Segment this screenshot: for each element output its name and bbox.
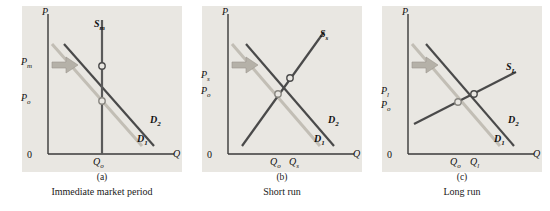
panel-a-caption: Immediate market period	[22, 186, 182, 197]
supply-curve-sl	[414, 72, 516, 124]
panel-b: P Q 0 Ps Po Qo Qs Ss D1 D2	[202, 6, 362, 172]
supply-curve-ss	[242, 32, 324, 146]
panel-c-quantity-label-qo: Qo	[450, 156, 461, 170]
panel-b-demand-label-d2: D2	[328, 114, 339, 128]
panel-c-letter: (c)	[382, 172, 542, 182]
panel-b-diagram	[202, 6, 362, 172]
equilibrium-point-new	[471, 91, 477, 97]
panel-a-price-label-po: Po	[21, 92, 31, 106]
panel-a-supply-label: Sm	[94, 18, 105, 32]
panel-a-origin-label: 0	[27, 149, 32, 160]
panel-a-y-axis-label: P	[42, 6, 48, 17]
panel-a: P Q 0 Pm Po Qo Sm D1 D2	[22, 6, 182, 172]
equilibrium-point-old	[275, 91, 281, 97]
panel-b-letter: (b)	[202, 172, 362, 182]
equilibrium-point-old	[455, 99, 461, 105]
panel-a-letter: (a)	[22, 172, 182, 182]
demand-curve-d1-shadow	[412, 44, 500, 146]
panel-b-quantity-label-qs: Qs	[289, 156, 299, 170]
demand-curve-d2	[246, 44, 334, 146]
equilibrium-point-old	[99, 98, 105, 104]
demand-curve-d1-shadow	[52, 44, 142, 146]
panel-c-price-label-pl: Pl	[381, 85, 389, 99]
panel-c: P Q 0 Pl Po Qo Ql SL D1 D2	[382, 6, 542, 172]
panel-c-x-axis-label: Q	[533, 148, 540, 159]
panel-b-origin-label: 0	[207, 149, 212, 160]
panel-b-supply-label: Ss	[320, 28, 328, 42]
panel-b-x-axis-label: Q	[353, 148, 360, 159]
panel-a-demand-label-d1: D1	[137, 133, 148, 147]
equilibrium-point-new	[287, 75, 293, 81]
panel-c-quantity-label-ql: Ql	[470, 156, 479, 170]
panel-c-demand-label-d1: D1	[494, 133, 505, 147]
panel-c-diagram	[382, 6, 542, 172]
panel-b-caption: Short run	[202, 186, 362, 197]
panel-c-y-axis-label: P	[402, 6, 408, 17]
panel-b-price-label-po: Po	[201, 85, 211, 99]
panel-c-origin-label: 0	[387, 149, 392, 160]
panel-b-quantity-label-qo: Qo	[270, 156, 281, 170]
panel-c-caption: Long run	[382, 186, 542, 197]
panel-c-supply-label: SL	[506, 61, 516, 75]
supply-demand-figure: P Q 0 Pm Po Qo Sm D1 D2 (a) Immediate ma…	[0, 0, 550, 211]
panel-a-x-axis-label: Q	[173, 148, 180, 159]
panel-a-quantity-label-qo: Qo	[93, 156, 104, 170]
panel-c-demand-label-d2: D2	[508, 114, 519, 128]
demand-curve-d2	[64, 44, 154, 146]
equilibrium-point-new	[99, 63, 105, 69]
panel-b-y-axis-label: P	[222, 6, 228, 17]
panel-b-price-label-ps: Ps	[201, 69, 210, 83]
panel-a-price-label-pm: Pm	[21, 56, 32, 70]
panel-b-demand-label-d1: D1	[314, 133, 325, 147]
panel-a-demand-label-d2: D2	[150, 114, 161, 128]
panel-c-price-label-po: Po	[381, 99, 391, 113]
